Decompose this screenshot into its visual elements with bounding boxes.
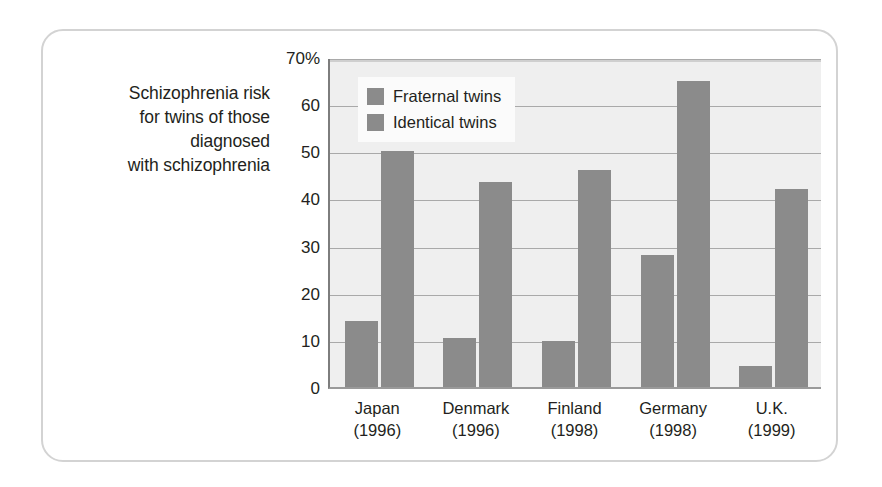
legend-swatch-icon	[367, 114, 384, 131]
bar	[775, 189, 808, 387]
x-tick-label-line: U.K.	[748, 397, 796, 419]
y-tick-label: 70%	[274, 49, 320, 69]
x-tick-label-line: Japan	[353, 397, 401, 419]
caption-line-1: Schizophrenia risk	[55, 81, 270, 105]
caption-line-4: with schizophrenia	[55, 153, 270, 177]
y-axis: 010203040506070%	[274, 59, 320, 389]
x-tick-label-line: (1996)	[353, 419, 401, 441]
x-tick-label-line: Germany	[639, 397, 707, 419]
legend-item-fraternal: Fraternal twins	[367, 83, 501, 109]
chart-legend: Fraternal twins Identical twins	[358, 77, 515, 142]
bar	[443, 338, 476, 388]
x-tick-label-line: (1998)	[547, 419, 601, 441]
gridline	[330, 59, 821, 60]
x-tick-label: Germany(1998)	[639, 397, 707, 441]
x-tick-label-line: Finland	[547, 397, 601, 419]
bar	[578, 170, 611, 387]
bar	[345, 321, 378, 387]
y-tick-label: 0	[274, 379, 320, 399]
figure-caption: Schizophrenia risk for twins of those di…	[55, 81, 270, 177]
bar	[739, 366, 772, 387]
x-axis: Japan(1996)Denmark(1996)Finland(1998)Ger…	[328, 397, 821, 453]
bar	[677, 81, 710, 387]
x-tick-label-line: Denmark	[442, 397, 509, 419]
x-tick-label: U.K.(1999)	[748, 397, 796, 441]
caption-line-2: for twins of those	[55, 105, 270, 129]
x-tick-label: Denmark(1996)	[442, 397, 509, 441]
y-tick-label: 20	[274, 285, 320, 305]
y-tick-label: 50	[274, 143, 320, 163]
y-tick-label: 40	[274, 190, 320, 210]
x-tick-label: Japan(1996)	[353, 397, 401, 441]
bar	[542, 341, 575, 387]
bar-chart: 010203040506070% Fraternal twins Identic…	[274, 59, 826, 459]
x-tick-label: Finland(1998)	[547, 397, 601, 441]
bar	[381, 151, 414, 387]
caption-line-3: diagnosed	[55, 129, 270, 153]
x-tick-label-line: (1999)	[748, 419, 796, 441]
y-tick-label: 10	[274, 332, 320, 352]
legend-item-identical: Identical twins	[367, 109, 501, 135]
x-tick-label-line: (1996)	[442, 419, 509, 441]
plot-area: Fraternal twins Identical twins	[328, 59, 821, 389]
y-tick-label: 30	[274, 238, 320, 258]
legend-label-identical: Identical twins	[393, 113, 497, 132]
legend-swatch-icon	[367, 88, 384, 105]
bar	[641, 255, 674, 387]
figure-card: Schizophrenia risk for twins of those di…	[41, 29, 838, 462]
y-tick-label: 60	[274, 96, 320, 116]
legend-label-fraternal: Fraternal twins	[393, 87, 501, 106]
x-tick-label-line: (1998)	[639, 419, 707, 441]
bar	[479, 182, 512, 387]
